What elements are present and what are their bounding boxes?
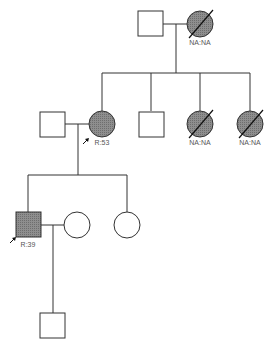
proband-arrow-icon [10,237,16,243]
label-iii1: R:39 [21,241,36,248]
individual-ii-spouse-male[interactable] [40,112,65,137]
generation-3: R:39 [10,212,140,248]
proband-arrow-icon [83,138,89,144]
female-affected-symbol [89,111,115,137]
individual-i2-female-affected-deceased[interactable] [187,10,213,38]
label-i2: NA:NA [189,39,211,46]
individual-ii4-female-affected-deceased[interactable] [237,110,263,138]
pedigree-chart: NA:NA R:53 NA:NA NA:NA R:39 [0,0,270,350]
label-ii1: R:53 [95,139,110,146]
individual-iii-spouse-female[interactable] [64,212,90,238]
individual-iii2-female[interactable] [114,212,140,238]
individual-iii1-male-affected[interactable] [16,212,41,237]
individual-ii2-male[interactable] [139,112,164,137]
generation-4 [40,313,65,338]
label-ii3: NA:NA [189,139,211,146]
individual-i1-male[interactable] [138,11,163,36]
individual-ii3-female-affected-deceased[interactable] [187,110,213,138]
connector-lines [28,24,250,313]
individual-ii1-female-affected[interactable] [89,111,115,137]
individual-iv1-male[interactable] [40,313,65,338]
generation-2: R:53 NA:NA NA:NA [40,110,263,146]
label-ii4: NA:NA [239,139,261,146]
